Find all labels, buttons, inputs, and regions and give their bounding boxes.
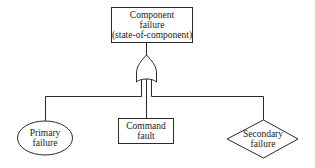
command-fault-label-line-2: fault — [137, 131, 155, 141]
command-fault-event: Command fault — [119, 119, 174, 144]
secondary-failure-event: Secondary failure — [227, 120, 298, 158]
fault-tree-diagram: Component failure (state-of-component) P… — [0, 0, 315, 168]
or-gate-icon — [137, 55, 157, 82]
secondary-failure-label-line-1: Secondary — [243, 129, 283, 139]
top-event-label-line-2: failure — [140, 20, 165, 30]
connector-gate-to-primary — [46, 80, 142, 121]
primary-failure-event: Primary failure — [18, 121, 73, 155]
primary-failure-label-line-2: failure — [33, 138, 58, 148]
secondary-failure-label-line-2: failure — [251, 139, 276, 149]
command-fault-label-line-1: Command — [126, 121, 166, 131]
top-event-label-line-1: Component — [130, 10, 175, 20]
connector-gate-to-secondary — [152, 80, 264, 120]
primary-failure-label-line-1: Primary — [30, 128, 61, 138]
top-event: Component failure (state-of-component) — [112, 8, 193, 43]
top-event-label-line-3: (state-of-component) — [112, 30, 192, 41]
